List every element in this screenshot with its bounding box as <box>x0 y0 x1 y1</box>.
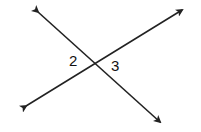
line-ascending <box>26 10 182 106</box>
angle-label-3: 3 <box>111 58 119 73</box>
diagram: 2 3 <box>0 0 201 132</box>
angle-label-2: 2 <box>69 53 77 68</box>
intersecting-lines-figure <box>0 0 201 132</box>
line-descending <box>38 12 160 122</box>
